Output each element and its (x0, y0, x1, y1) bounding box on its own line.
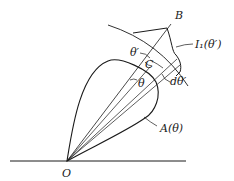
label-i1: I₁(θ′) (194, 38, 221, 51)
dtheta-leader (162, 74, 170, 82)
label-o: O (62, 167, 71, 180)
label-c: C (145, 58, 154, 71)
diagram-canvas: B I₁(θ′) θ′ C θ dθ′ A(θ) O (0, 0, 234, 181)
theta-arc (130, 79, 137, 80)
line-dtheta-1 (67, 59, 177, 161)
intensity-curve (133, 28, 181, 76)
label-dtheta-prime: dθ′ (170, 75, 187, 88)
a-leader (144, 117, 157, 126)
label-theta-prime: θ′ (130, 46, 140, 59)
label-a: A(θ) (159, 122, 183, 135)
i1-leader (176, 44, 193, 47)
label-theta: θ (138, 77, 145, 90)
label-b: B (174, 9, 183, 22)
line-dtheta-2 (67, 65, 180, 161)
